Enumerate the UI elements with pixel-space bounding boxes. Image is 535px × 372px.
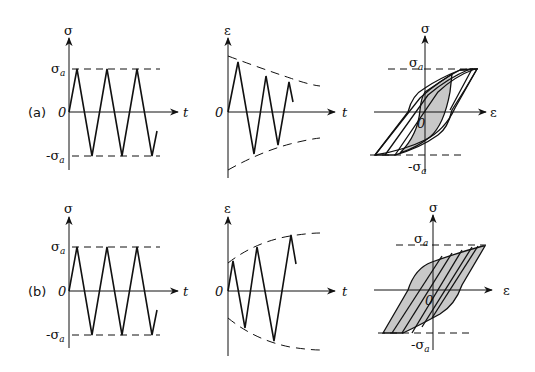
- origin-label: 0: [215, 105, 223, 120]
- sigma-label: σ: [64, 23, 73, 38]
- sigma-label: σ: [421, 21, 430, 36]
- epsilon-label: ε: [503, 283, 510, 298]
- neg-sigma-a-label: -σa: [411, 337, 430, 354]
- row-b: (b) σ 0 t σa -σa ε 0 t: [28, 200, 510, 356]
- origin-label: 0: [417, 116, 425, 131]
- sigma-a-label: σa: [409, 55, 423, 72]
- t-label: t: [183, 105, 189, 120]
- row-tag-b: (b): [28, 284, 46, 299]
- sigma-label: σ: [429, 200, 438, 215]
- t-label: t: [183, 284, 189, 299]
- stress-time-plot-a: σ 0 t σa -σa: [46, 23, 189, 170]
- neg-sigma-a-label: -σa: [408, 159, 427, 176]
- upper-envelope: [228, 233, 320, 263]
- strain-time-plot-b: ε 0 t: [215, 201, 348, 356]
- row-tag-a: (a): [28, 105, 46, 120]
- sigma-a-label: σa: [51, 61, 65, 78]
- row-a: (a) σ 0 t σa -σa ε 0 t: [28, 21, 497, 178]
- sigma-a-label: σa: [414, 231, 428, 248]
- neg-sigma-a-label: -σa: [46, 148, 65, 165]
- lower-envelope: [228, 318, 320, 350]
- lower-envelope: [228, 138, 320, 170]
- sigma-label: σ: [64, 201, 73, 216]
- strain-signal: [228, 235, 296, 341]
- stress-time-plot-b: σ 0 t σa -σa: [46, 201, 189, 348]
- origin-label: 0: [215, 284, 223, 299]
- epsilon-label: ε: [224, 201, 231, 216]
- sigma-a-label: σa: [51, 239, 65, 256]
- epsilon-label: ε: [490, 105, 497, 120]
- origin-label: 0: [58, 284, 66, 299]
- cyclic-loading-diagram: (a) σ 0 t σa -σa ε 0 t: [0, 0, 535, 372]
- hysteresis-plot-a: σ ε 0 σa -σa: [370, 21, 497, 176]
- strain-signal: [228, 62, 293, 154]
- origin-label: 0: [58, 105, 66, 120]
- epsilon-label: ε: [224, 23, 231, 38]
- t-label: t: [342, 105, 348, 120]
- hysteresis-plot-b: σ ε 0 σa -σa: [374, 200, 510, 354]
- neg-sigma-a-label: -σa: [46, 327, 65, 344]
- strain-time-plot-a: ε 0 t: [215, 23, 348, 178]
- origin-label: 0: [425, 293, 433, 308]
- t-label: t: [342, 284, 348, 299]
